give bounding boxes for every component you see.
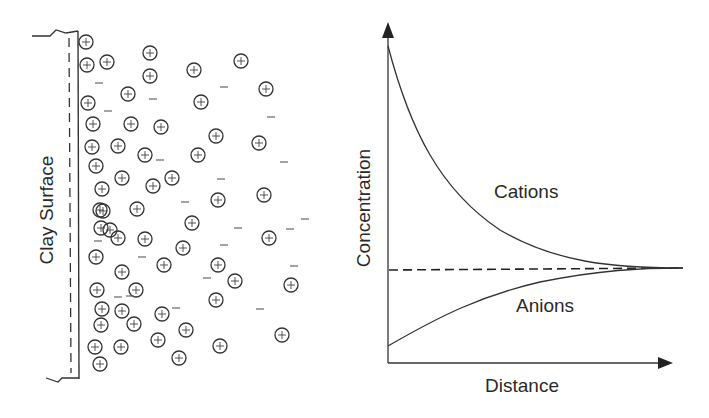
cation-icon <box>103 223 117 237</box>
cation-icon <box>124 117 138 131</box>
y-axis-label: Concentration <box>353 149 374 267</box>
cation-icon <box>129 283 143 297</box>
y-axis-arrow-icon <box>382 22 394 38</box>
cation-icon <box>138 148 152 162</box>
cation-icon <box>85 140 99 154</box>
cation-icon <box>143 69 157 83</box>
cation-icon <box>165 171 179 185</box>
cation-icon <box>257 188 271 202</box>
clay-surface-line <box>78 31 79 379</box>
cation-icon <box>94 318 108 332</box>
stern-plane-dashed-line <box>69 38 71 373</box>
cation-icon <box>115 171 129 185</box>
cation-icon <box>157 258 171 272</box>
cation-icon <box>89 159 103 173</box>
cation-icon <box>130 202 144 216</box>
clay-surface-panel: Clay Surface <box>32 30 309 382</box>
cation-icon <box>211 193 225 207</box>
cation-icon <box>284 278 298 292</box>
x-axis-arrow-icon <box>658 357 673 369</box>
cation-icon <box>154 120 168 134</box>
cation-icon <box>95 182 109 196</box>
cation-icon <box>100 55 114 69</box>
cation-icon <box>79 35 93 49</box>
double-layer-diagram: Clay Surface Cations Anions Concentratio… <box>0 0 709 418</box>
cation-icon <box>209 293 223 307</box>
cation-icon <box>89 250 103 264</box>
cation-icon <box>93 357 107 371</box>
cation-icon <box>211 258 225 272</box>
clay-surface-label: Clay Surface <box>36 156 57 265</box>
cation-icon <box>121 87 135 101</box>
cation-icon <box>143 46 157 60</box>
anion-particles <box>94 83 309 309</box>
cation-icon <box>95 302 109 316</box>
cation-icon <box>209 129 223 143</box>
cation-icon <box>252 136 266 150</box>
cation-icon <box>259 82 273 96</box>
cation-icon <box>234 54 248 68</box>
wall-top-edge <box>32 30 78 36</box>
cation-icon <box>191 148 205 162</box>
cation-icon <box>179 323 193 337</box>
cation-icon <box>187 63 201 77</box>
cations-curve <box>388 46 683 268</box>
cation-particles <box>79 35 298 371</box>
anions-label: Anions <box>516 295 574 316</box>
cation-icon <box>213 339 227 353</box>
cation-icon <box>138 232 152 246</box>
wall-bottom-edge <box>46 378 79 382</box>
cation-icon <box>94 221 108 235</box>
cation-icon <box>115 304 129 318</box>
cation-icon <box>114 340 128 354</box>
cation-icon <box>176 241 190 255</box>
cation-icon <box>81 96 95 110</box>
cation-icon <box>155 307 169 321</box>
x-axis-label: Distance <box>485 375 559 396</box>
cation-icon <box>88 340 102 354</box>
cation-icon <box>111 139 125 153</box>
cation-icon <box>127 317 141 331</box>
cation-icon <box>194 95 208 109</box>
cation-icon <box>86 117 100 131</box>
cation-icon <box>80 58 94 72</box>
cation-icon <box>275 328 289 342</box>
cations-label: Cations <box>494 181 558 202</box>
cation-icon <box>151 333 165 347</box>
cation-icon <box>90 283 104 297</box>
cation-icon <box>172 351 186 365</box>
cation-icon <box>228 274 242 288</box>
concentration-chart: Cations Anions Concentration Distance <box>353 22 683 396</box>
cation-icon <box>146 179 160 193</box>
cation-icon <box>111 231 125 245</box>
cation-icon <box>185 216 199 230</box>
cation-icon <box>115 265 129 279</box>
cation-icon <box>262 231 276 245</box>
